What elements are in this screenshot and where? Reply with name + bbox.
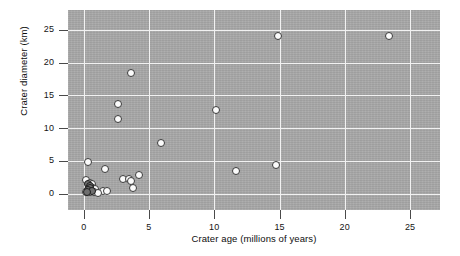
x-axis-tick [280, 210, 281, 219]
gridline-horizontal [68, 63, 440, 64]
y-axis-tick [59, 30, 68, 31]
gridline-horizontal [68, 30, 440, 31]
y-axis-tick-label: 0 [32, 189, 54, 198]
y-axis-tick [59, 63, 68, 64]
scatter-chart-figure: 0510152025 0510152025 Crater diameter (k… [0, 0, 460, 256]
gridline-vertical [149, 10, 150, 210]
y-axis-tick-label: 10 [32, 124, 54, 133]
gridline-vertical [280, 10, 281, 210]
y-axis-tick-label: 15 [32, 91, 54, 100]
y-axis-tick-label: 20 [32, 58, 54, 67]
x-axis-tick-label: 25 [395, 223, 425, 232]
y-axis-tick [59, 128, 68, 129]
x-axis-tick [84, 210, 85, 219]
plot-area [68, 10, 440, 210]
data-point [212, 106, 220, 114]
data-point [114, 115, 122, 123]
gridline-horizontal [68, 194, 440, 195]
y-axis-tick-label: 5 [32, 156, 54, 165]
gridline-horizontal [68, 128, 440, 129]
y-axis-tick [59, 194, 68, 195]
data-point [135, 171, 143, 179]
gridline-horizontal [68, 161, 440, 162]
x-axis-tick-label: 20 [330, 223, 360, 232]
gridline-vertical [345, 10, 346, 210]
data-point [272, 161, 280, 169]
data-point [274, 32, 282, 40]
x-axis-tick [410, 210, 411, 219]
data-point [157, 139, 165, 147]
y-axis-tick [59, 95, 68, 96]
gridline-vertical [410, 10, 411, 210]
x-axis-tick [149, 210, 150, 219]
data-point [127, 69, 135, 77]
data-point [232, 167, 240, 175]
x-axis-tick [345, 210, 346, 219]
data-point [114, 100, 122, 108]
x-axis-title: Crater age (millions of years) [68, 234, 440, 244]
x-axis-tick-label: 10 [199, 223, 229, 232]
y-axis-tick-label: 25 [32, 25, 54, 34]
gridline-horizontal [68, 95, 440, 96]
data-point [84, 158, 92, 166]
y-axis-tick [59, 161, 68, 162]
data-point [385, 32, 393, 40]
y-axis-title: Crater diameter (km) [19, 6, 29, 136]
x-axis-tick-label: 0 [69, 223, 99, 232]
x-axis-tick-label: 5 [134, 223, 164, 232]
data-point [129, 184, 137, 192]
data-point [83, 188, 91, 196]
x-axis-tick-label: 15 [265, 223, 295, 232]
data-point [101, 165, 109, 173]
x-axis-tick [214, 210, 215, 219]
